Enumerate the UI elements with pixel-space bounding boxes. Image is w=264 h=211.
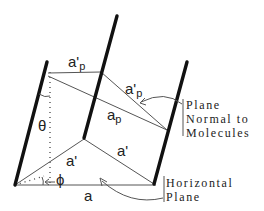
annotation-plane-normal-line3: Molecules <box>186 126 250 140</box>
annotation-plane-normal-line1: Plane <box>186 98 221 112</box>
label-a-prime-left: a' <box>66 152 77 169</box>
theta-arc <box>39 94 50 97</box>
label-phi: ϕ <box>56 171 64 188</box>
annotation-horizontal-plane-line2: Plane <box>166 190 201 204</box>
phi-projection-line <box>15 176 44 185</box>
label-a-prime-p-top: a'p <box>68 53 85 72</box>
label-a-prime-p-diag: a'p <box>125 80 142 99</box>
label-theta: θ <box>38 117 46 134</box>
label-a-prime-right: a' <box>117 142 128 159</box>
label-a: a <box>84 187 93 204</box>
annotation-plane-normal-line2: Normal to <box>186 112 249 126</box>
phi-arc <box>42 177 43 185</box>
molecular-tilt-diagram: a'p a'p ap θ a' a' ϕ a Plane Normal to M… <box>0 0 264 211</box>
annotation-horizontal-plane-line1: Horizontal <box>166 176 233 190</box>
line-a-prime-p-top <box>48 72 101 73</box>
